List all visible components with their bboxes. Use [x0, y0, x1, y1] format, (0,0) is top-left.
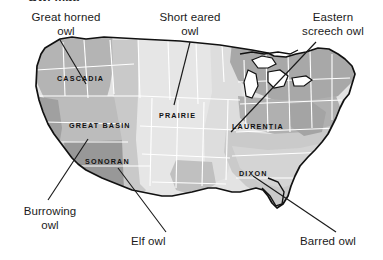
region-fill-california-strip: [32, 96, 62, 168]
callout-burrowing-owl: Burrowing owl: [8, 205, 92, 232]
region-label-great-basin: GREAT BASIN: [69, 121, 131, 130]
owl-habitat-map-figure: Owl map: [0, 0, 383, 260]
region-label-prairie: PRAIRIE: [159, 111, 196, 120]
region-label-cascadia: CASCADIA: [57, 74, 104, 83]
callout-eastern-screech-owl: Eastern screech owl: [288, 11, 378, 38]
region-label-dixon: DIXON: [239, 169, 268, 178]
callout-elf-owl: Elf owl: [131, 235, 191, 249]
leader-barred-owl: [253, 176, 336, 232]
region-label-sonoran: SONORAN: [85, 157, 130, 166]
callout-barred-owl: Barred owl: [300, 235, 376, 249]
region-label-laurentia: LAURENTIA: [232, 122, 284, 131]
callout-great-horned-owl: Great horned owl: [14, 11, 118, 38]
callout-short-eared-owl: Short eared owl: [149, 11, 231, 38]
